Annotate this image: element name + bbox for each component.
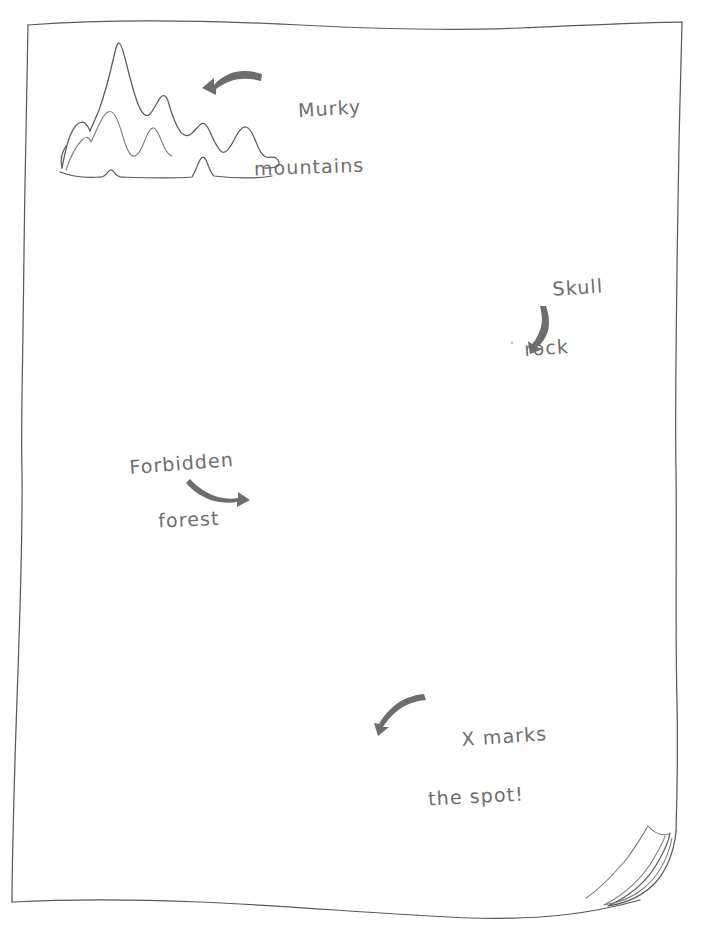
label-xmarks-line2: the spot! [427, 779, 551, 813]
label-skull-line2: rock [523, 330, 608, 363]
map-canvas: Murky mountains Skull rock Forbidden for… [0, 0, 701, 945]
label-murky-line2: mountains [253, 151, 365, 182]
label-murky-mountains: Murky mountains [267, 65, 369, 238]
label-forest-line2: forest [158, 504, 239, 535]
label-x-marks-the-spot: X marks the spot! [430, 692, 556, 868]
label-xmarks-line1: X marks [461, 722, 548, 750]
label-skull-rock: Skull rock [521, 244, 612, 417]
label-forest-line1: Forbidden [128, 447, 234, 477]
ink-speck [511, 342, 514, 345]
label-forbidden-forest: Forbidden forest [98, 418, 244, 595]
label-skull-line1: Skull [552, 274, 604, 299]
label-murky-line1: Murky [297, 95, 362, 121]
